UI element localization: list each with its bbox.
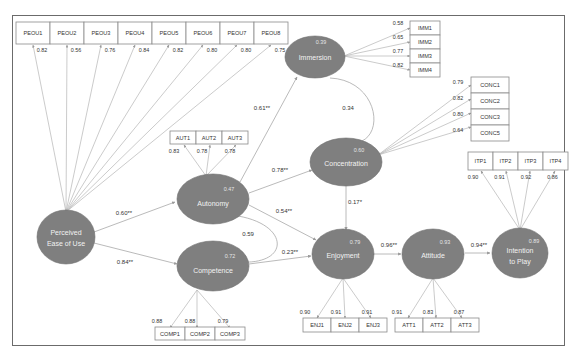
loading-aut1: 0.83 [169,148,180,154]
svg-text:COMP2: COMP2 [190,331,210,337]
svg-text:0.23**: 0.23** [282,249,299,255]
svg-text:COMP1: COMP1 [160,331,180,337]
indicator-conc2: CONC20.82 [453,93,509,109]
loading-imm2: 0.65 [393,34,404,40]
svg-text:Competence: Competence [193,267,233,275]
indicator-imm4: IMM40.82 [393,62,440,77]
loading-peou4: 0.84 [139,47,150,53]
svg-text:0.59: 0.59 [242,231,254,237]
comp-indicators: COMP10.88COMP20.88COMP30.79 [152,318,245,340]
svg-text:Concentration: Concentration [324,160,368,167]
svg-text:ITP2: ITP2 [500,158,512,164]
indicator-comp2: COMP20.88 [185,318,215,340]
indicator-peou4: PEOU40.84 [118,22,152,53]
latent-attitude: 0.93 Attitude [402,229,464,279]
svg-text:ATT3: ATT3 [458,322,471,328]
loading-conc2: 0.82 [453,95,464,101]
loading-imm4: 0.82 [393,62,404,68]
latent-immersion: 0.39 Immersion [285,36,345,78]
loading-att2: 0.83 [423,309,434,315]
svg-text:PEOU6: PEOU6 [194,30,213,36]
svg-text:ENJ2: ENJ2 [338,322,352,328]
peou-indicators: PEOU10.82PEOU20.56PEOU30.76PEOU40.84PEOU… [16,22,288,53]
svg-text:Immersion: Immersion [299,54,332,61]
loading-conc1: 0.79 [453,79,464,85]
latent-autonomy: 0.47 Autonomy [177,174,249,224]
svg-text:IMM3: IMM3 [418,53,432,59]
loading-imm3: 0.77 [393,48,404,54]
svg-text:0.94**: 0.94** [471,242,488,248]
indicator-imm2: IMM20.65 [393,34,440,49]
indicator-aut3: AUT30.78 [222,131,248,154]
indicator-conc1: CONC10.79 [453,77,509,93]
loading-peou2: 0.56 [71,47,82,53]
svg-text:ATT1: ATT1 [402,322,415,328]
loading-peou3: 0.76 [105,47,116,53]
loading-imm1: 0.58 [393,20,404,26]
svg-text:PEOU4: PEOU4 [126,30,145,36]
indicator-enj3: ENJ30.91 [359,309,387,332]
loading-peou6: 0.80 [207,47,218,53]
svg-text:0.61**: 0.61** [254,105,271,111]
svg-text:ENJ1: ENJ1 [310,322,324,328]
svg-text:0.93: 0.93 [440,239,451,245]
indicator-imm3: IMM30.77 [393,48,440,63]
svg-text:ATT2: ATT2 [430,322,443,328]
svg-text:0.39: 0.39 [316,39,327,45]
indicator-peou3: PEOU30.76 [84,22,118,53]
indicator-aut1: AUT10.83 [169,131,196,154]
loading-enj3: 0.91 [362,309,373,315]
svg-text:ITP4: ITP4 [550,158,562,164]
itp-indicators: ITP10.90ITP20.91ITP30.92ITP40.86 [468,152,568,180]
svg-text:PEOU8: PEOU8 [262,30,281,36]
svg-text:Intention: Intention [507,247,534,254]
svg-text:PEOU1: PEOU1 [24,30,43,36]
loading-aut2: 0.78 [197,148,208,154]
loading-comp1: 0.88 [152,318,163,324]
indicator-peou6: PEOU60.80 [186,22,220,53]
indicator-conc3: CONC30.80 [453,109,509,125]
indicator-conc5: CONC50.64 [453,125,509,141]
svg-text:Enjoyment: Enjoyment [326,252,359,260]
svg-text:IMM4: IMM4 [418,67,432,73]
loading-itp4: 0.86 [547,174,558,180]
indicator-comp3: COMP30.79 [215,318,245,340]
loading-peou7: 0.80 [241,47,252,53]
indicator-att3: ATT30.87 [451,309,479,332]
loading-peou5: 0.82 [173,47,184,53]
svg-text:PEOU3: PEOU3 [92,30,111,36]
svg-text:ENJ3: ENJ3 [366,322,380,328]
svg-text:0.72: 0.72 [225,253,236,259]
itp-loading-lines [481,171,555,230]
latent-intention-to-play: 0.89 Intention to Play [492,228,548,278]
svg-text:AUT3: AUT3 [228,135,242,141]
svg-text:0.89: 0.89 [529,238,540,244]
indicator-peou5: PEOU50.82 [152,22,186,53]
aut-indicators: AUT10.83AUT20.78AUT30.78 [169,131,248,154]
svg-text:Perceived: Perceived [50,229,81,236]
loading-itp3: 0.92 [521,174,532,180]
loading-enj1: 0.90 [300,309,311,315]
svg-text:0.47: 0.47 [224,186,235,192]
loading-comp3: 0.79 [218,318,229,324]
svg-text:PEOU2: PEOU2 [58,30,77,36]
svg-text:0.60: 0.60 [354,147,365,153]
svg-text:0.96**: 0.96** [381,242,398,248]
latent-competence: 0.72 Competence [177,241,249,291]
svg-text:0.60**: 0.60** [116,210,133,216]
loading-enj2: 0.91 [331,309,342,315]
svg-text:0.78**: 0.78** [272,167,289,173]
loading-att3: 0.87 [454,309,465,315]
svg-text:Attitude: Attitude [421,252,445,259]
svg-text:CONC1: CONC1 [480,82,500,88]
loading-peou8: 0.75 [275,47,286,53]
svg-text:to Play: to Play [509,258,531,266]
svg-text:IMM2: IMM2 [418,39,432,45]
svg-text:0.17*: 0.17* [348,199,363,205]
svg-text:AUT2: AUT2 [202,135,216,141]
svg-text:0.79: 0.79 [350,239,361,245]
loading-conc5: 0.64 [453,127,464,133]
loading-comp2: 0.88 [185,318,196,324]
svg-text:CONC2: CONC2 [480,98,500,104]
svg-text:0.84**: 0.84** [117,259,134,265]
